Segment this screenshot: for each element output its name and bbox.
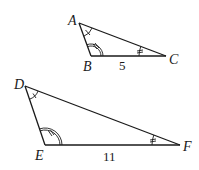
- angle-c-arc: [139, 46, 141, 56]
- side-df: [25, 86, 180, 145]
- similar-triangles-diagram: A B C 5 D E F 11: [0, 0, 199, 170]
- vertex-label-b: B: [83, 59, 92, 74]
- side-ac: [79, 23, 166, 56]
- triangle-abc: A B C 5: [67, 13, 179, 74]
- angle-f-tick-1: [150, 139, 156, 140]
- side-ef-length: 11: [103, 149, 116, 164]
- triangle-def: D E F 11: [13, 77, 192, 164]
- vertex-label-f: F: [182, 139, 192, 154]
- angle-c-tick-1: [137, 50, 143, 51]
- angle-e-arc-1: [40, 130, 60, 145]
- vertex-label-c: C: [169, 52, 179, 67]
- angle-f-tick-2: [150, 141, 156, 142]
- vertex-label-d: D: [13, 77, 24, 92]
- angle-c-tick-2: [137, 52, 143, 53]
- side-ab: [79, 23, 91, 56]
- vertex-label-a: A: [67, 13, 77, 28]
- side-de: [25, 86, 45, 145]
- side-bc-length: 5: [119, 58, 126, 73]
- vertex-label-e: E: [34, 148, 44, 163]
